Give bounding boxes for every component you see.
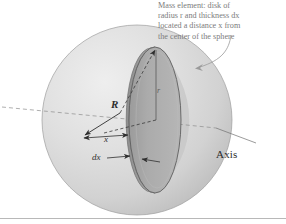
caption-line-3: located a distance x from (158, 21, 286, 31)
mass-element-caption: Mass element: disk of radius r and thick… (158, 1, 286, 42)
label-disk-radius: r (157, 86, 160, 95)
disk-mass-element (126, 47, 181, 193)
label-sphere-radius: R (111, 98, 118, 110)
label-axis: Axis (216, 148, 238, 160)
caption-line-1: Mass element: disk of (158, 1, 286, 11)
figure-page: Mass element: disk of radius r and thick… (0, 0, 286, 224)
label-disk-thickness: dx (92, 152, 101, 162)
caption-line-4: the center of the sphere (158, 32, 286, 42)
caption-line-2: radius r and thickness dx (158, 11, 286, 21)
page-bottom-rule (0, 218, 286, 219)
label-distance-x: x (104, 134, 108, 144)
